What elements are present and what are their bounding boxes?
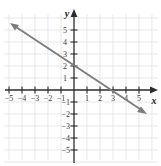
y-tick-label: 1 xyxy=(63,74,67,83)
graph-canvas: −5 −4 −3 −2 −1 1 2 3 4 5 5 4 3 2 1 −1 −2… xyxy=(0,0,161,166)
x-tick-label: −2 xyxy=(44,94,53,103)
line-arrowhead-upper-left xyxy=(10,23,19,31)
y-tick-label: −5 xyxy=(61,146,70,155)
y-tick-label: −4 xyxy=(61,134,70,143)
y-axis-arrowhead xyxy=(71,9,78,17)
y-axis xyxy=(71,9,78,163)
x-tick-label: −3 xyxy=(31,94,40,103)
coordinate-plane-figure: −5 −4 −3 −2 −1 1 2 3 4 5 5 4 3 2 1 −1 −2… xyxy=(0,0,161,166)
y-tick-label: −1 xyxy=(61,98,70,107)
y-axis-label: y xyxy=(64,8,70,19)
x-tick-label: 1 xyxy=(85,94,89,103)
x-axis xyxy=(5,87,158,94)
x-tick-label: −4 xyxy=(18,94,27,103)
y-tick-label: 4 xyxy=(63,38,67,47)
x-axis-arrowhead xyxy=(150,87,158,94)
x-axis-label: x xyxy=(151,95,157,106)
x-tick-label: 5 xyxy=(137,94,141,103)
y-tick-label: 2 xyxy=(63,62,67,71)
y-tick-label: −3 xyxy=(61,122,70,131)
y-tick-label: −2 xyxy=(61,110,70,119)
x-tick-label: 2 xyxy=(98,94,102,103)
y-tick-label: 5 xyxy=(63,26,67,35)
x-tick-label: 3 xyxy=(111,94,115,103)
x-tick-label: −5 xyxy=(5,94,14,103)
